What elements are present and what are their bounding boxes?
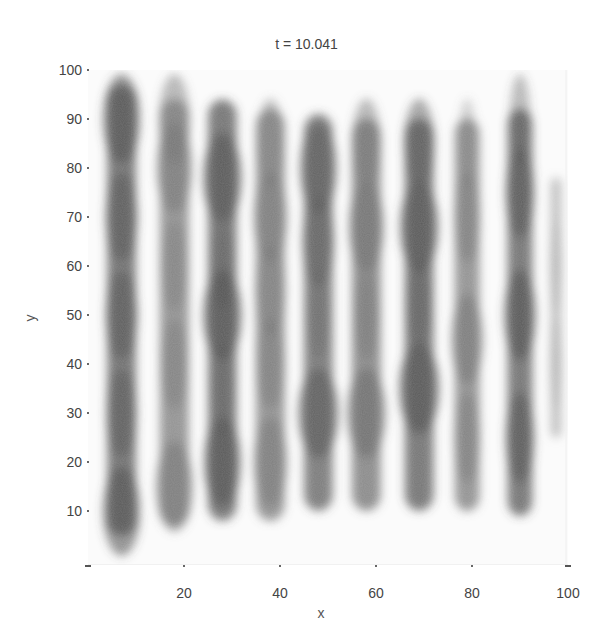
x-tick-mark [279,565,281,567]
y-tick-mark [87,216,89,218]
x-tick-label: 80 [464,585,480,601]
y-tick-mark [87,510,89,512]
y-axis-label: y [22,315,38,322]
y-tick-mark [87,265,89,267]
y-tick-label: 100 [59,62,82,78]
y-tick-label: 50 [66,307,82,323]
heatmap-image [88,70,568,565]
y-tick-mark [87,461,89,463]
x-tick-label: 40 [272,585,288,601]
y-tick-label: 90 [66,111,82,127]
x-tick-label: 20 [176,585,192,601]
y-tick-label: 10 [66,503,82,519]
x-tick-mark [471,565,473,567]
y-tick-label: 70 [66,209,82,225]
heatmap-plot-area [88,70,568,565]
axis-origin-mark [85,565,91,567]
y-tick-mark [87,69,89,71]
y-tick-mark [87,314,89,316]
y-tick-label: 40 [66,356,82,372]
y-tick-label: 20 [66,454,82,470]
x-tick-mark [375,565,377,567]
x-tick-label: 100 [556,585,579,601]
y-tick-label: 60 [66,258,82,274]
y-tick-mark [87,363,89,365]
y-tick-mark [87,118,89,120]
y-tick-mark [87,167,89,169]
y-axis: 102030405060708090100 [0,0,82,641]
y-tick-label: 30 [66,405,82,421]
y-tick-label: 80 [66,160,82,176]
x-tick-mark [183,565,185,567]
x-tick-label: 60 [368,585,384,601]
chart-title: t = 10.041 [0,36,613,52]
y-tick-mark [87,412,89,414]
x-axis-label: x [318,605,325,621]
axis-end-mark [565,565,571,567]
